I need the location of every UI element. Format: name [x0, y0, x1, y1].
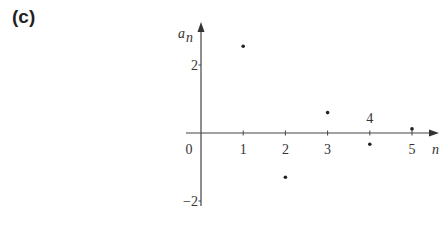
data-point	[284, 175, 288, 179]
origin-label: 0	[186, 142, 193, 157]
data-point	[368, 142, 372, 146]
y-axis-label-subscript: n	[186, 30, 193, 45]
x-tick-label: 5	[409, 142, 416, 157]
y-tick-label: 2	[191, 58, 198, 73]
y-axis-arrow-icon	[198, 22, 205, 32]
x-tick-label: 3	[324, 142, 331, 157]
y-axis-label: a	[178, 26, 185, 41]
y-tick-label: −2	[183, 194, 198, 209]
x-axis-label: n	[432, 142, 439, 157]
x-axis-arrow-icon	[429, 130, 439, 137]
x-tick-label: 1	[240, 142, 247, 157]
data-point	[326, 111, 330, 115]
x-tick-label: 4	[366, 111, 373, 126]
x-tick-label: 2	[282, 142, 289, 157]
scatter-plot: 1234502−2nan	[0, 0, 439, 228]
data-point	[241, 45, 245, 49]
data-point	[410, 127, 414, 131]
figure: (c) 1234502−2nan	[0, 0, 439, 228]
